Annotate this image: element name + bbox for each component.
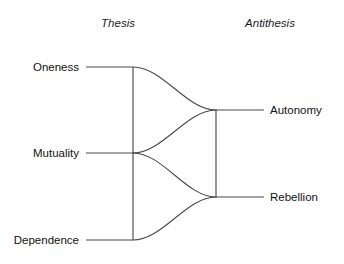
column-header-antithesis: Antithesis <box>244 17 295 29</box>
node-label-rebellion: Rebellion <box>270 191 318 203</box>
node-label-oneness: Oneness <box>33 61 79 73</box>
curve-oneness-to-autonomy <box>133 67 216 110</box>
curve-mutuality-to-rebellion <box>133 153 216 197</box>
node-label-dependence: Dependence <box>14 234 79 246</box>
dialectic-diagram: Thesis Antithesis Oneness Mutuality Depe… <box>0 0 344 264</box>
diagram-canvas: Thesis Antithesis Oneness Mutuality Depe… <box>0 0 344 264</box>
column-header-thesis: Thesis <box>101 17 135 29</box>
node-label-autonomy: Autonomy <box>270 104 322 116</box>
curve-mutuality-to-autonomy <box>133 110 216 153</box>
curve-dependence-to-rebellion <box>133 197 216 240</box>
node-label-mutuality: Mutuality <box>33 147 79 159</box>
